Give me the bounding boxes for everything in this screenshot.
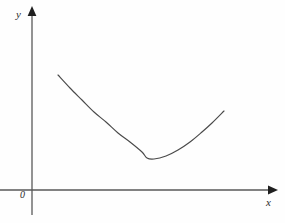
y-axis-label: y bbox=[16, 9, 21, 20]
y-axis-arrowhead-icon bbox=[28, 6, 37, 16]
graph-figure: y x 0 bbox=[0, 0, 285, 223]
curve-path bbox=[58, 75, 224, 159]
origin-label: 0 bbox=[20, 190, 25, 200]
plot-canvas bbox=[0, 0, 285, 223]
x-axis-label: x bbox=[266, 197, 271, 208]
x-axis-arrowhead-icon bbox=[268, 186, 278, 195]
